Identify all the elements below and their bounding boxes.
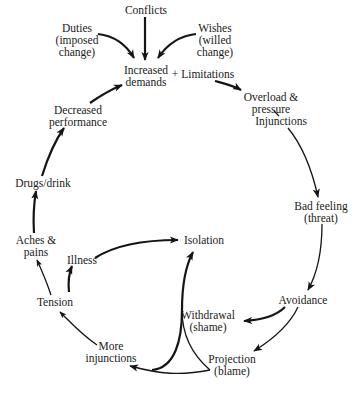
node-drugs-drink: Drugs/drink bbox=[15, 177, 71, 189]
edge-limitations-overload bbox=[215, 81, 241, 90]
edge-aches-drugs bbox=[34, 191, 36, 233]
node-increased-demands: Increased demands bbox=[124, 64, 168, 88]
edge-tension-aches bbox=[37, 260, 51, 295]
edge-projection-moreinjunctions bbox=[130, 366, 210, 373]
stress-cycle-diagram: Conflicts Duties (imposed change) Wishes… bbox=[0, 0, 360, 397]
node-limitations: + Limitations bbox=[172, 68, 234, 80]
edge-duties-demands bbox=[98, 34, 134, 58]
node-withdrawal: Withdrawal (shame) bbox=[181, 309, 235, 333]
edge-tension-illness bbox=[69, 266, 72, 292]
edge-illness-isolation bbox=[95, 240, 178, 258]
node-more-injunctions: More injunctions bbox=[85, 340, 136, 364]
node-illness: Illness bbox=[67, 254, 97, 266]
edge-badfeeling-avoidance bbox=[308, 224, 322, 290]
edge-performance-demands bbox=[90, 85, 122, 103]
edge-drugs-performance bbox=[42, 128, 64, 176]
diagram-edges bbox=[0, 0, 360, 397]
node-bad-feeling: Bad feeling (threat) bbox=[294, 200, 347, 224]
node-aches-pains: Aches & pains bbox=[16, 234, 57, 258]
node-duties: Duties (imposed change) bbox=[56, 22, 99, 58]
node-projection: Projection (blame) bbox=[208, 353, 255, 377]
node-wishes: Wishes (willed change) bbox=[197, 22, 233, 58]
node-isolation: Isolation bbox=[184, 234, 224, 246]
node-avoidance: Avoidance bbox=[279, 294, 328, 306]
node-decreased-performance: Decreased performance bbox=[49, 104, 107, 128]
node-tension: Tension bbox=[37, 296, 73, 308]
edge-injunctions-badfeeling bbox=[288, 128, 318, 197]
edge-wishes-demands bbox=[158, 34, 196, 58]
node-overload-pressure: Overload & pressure bbox=[244, 91, 299, 115]
node-conflicts: Conflicts bbox=[125, 4, 167, 16]
node-injunctions: Injunctions bbox=[255, 115, 307, 127]
edge-avoidance-withdrawal bbox=[244, 307, 285, 321]
